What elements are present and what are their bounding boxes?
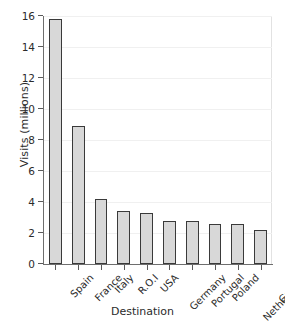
y-axis-tick: 0 — [0, 258, 44, 270]
y-axis-tick-label: 6 — [28, 165, 35, 177]
x-axis-title: Destination — [0, 305, 285, 318]
y-axis-tick-mark — [38, 46, 43, 47]
x-axis-tick-mark — [55, 265, 56, 270]
x-axis-tick-label: R.O.I — [136, 272, 160, 296]
y-axis-tick-label: 12 — [22, 72, 35, 84]
x-axis-tick-mark — [215, 265, 216, 270]
y-axis-tick-mark — [38, 77, 43, 78]
x-axis-tick-mark — [169, 265, 170, 270]
y-axis-tick-mark — [38, 201, 43, 202]
bar — [209, 224, 222, 264]
x-axis-tick-mark — [238, 265, 239, 270]
x-axis-tick-label: USA — [158, 272, 180, 294]
x-axis-tick-mark — [147, 265, 148, 270]
y-axis-tick: 10 — [0, 103, 44, 115]
x-axis-tick-mark — [78, 265, 79, 270]
y-axis-tick-mark — [38, 108, 43, 109]
y-axis-tick: 14 — [0, 41, 44, 53]
bar — [95, 199, 108, 264]
y-axis-tick: 12 — [0, 72, 44, 84]
bar — [231, 224, 244, 264]
x-axis-tick-mark — [101, 265, 102, 270]
y-axis-tick-label: 14 — [22, 41, 35, 53]
bar — [254, 230, 267, 264]
y-axis-tick-label: 10 — [22, 103, 35, 115]
x-axis-tick-mark — [124, 265, 125, 270]
plot-area — [44, 16, 272, 264]
x-axis-tick-mark — [261, 265, 262, 270]
y-axis-tick-mark — [38, 263, 43, 264]
y-axis-tick-mark — [38, 15, 43, 16]
bar — [186, 221, 199, 264]
bar — [49, 19, 62, 264]
y-axis-tick: 2 — [0, 227, 44, 239]
bar — [117, 211, 130, 264]
y-axis-tick: 16 — [0, 10, 44, 22]
y-axis-tick-label: 16 — [22, 10, 35, 22]
bar — [163, 221, 176, 264]
y-axis-tick-label: 4 — [28, 196, 35, 208]
y-axis-tick-label: 8 — [28, 134, 35, 146]
bar-chart: Visits (millions) 0246810121416 SpainFra… — [0, 0, 285, 324]
bar — [72, 126, 85, 264]
y-axis-tick: 8 — [0, 134, 44, 146]
y-axis-tick-mark — [38, 170, 43, 171]
y-axis-tick: 6 — [0, 165, 44, 177]
y-axis-tick-mark — [38, 232, 43, 233]
x-axis-tick-mark — [192, 265, 193, 270]
y-axis-tick: 4 — [0, 196, 44, 208]
y-axis-tick-label: 0 — [28, 258, 35, 270]
y-axis-tick-label: 2 — [28, 227, 35, 239]
bar-series — [44, 16, 272, 264]
y-axis-tick-mark — [38, 139, 43, 140]
bar — [140, 213, 153, 264]
